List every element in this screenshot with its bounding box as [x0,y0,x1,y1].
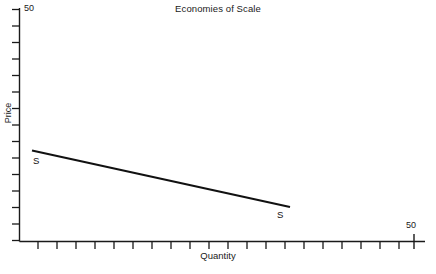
chart-figure: Economies of Scale [0,0,436,274]
supply-curve-label-start: S [33,155,39,166]
y-axis-label: Price [3,93,13,133]
y-axis-ticks [12,10,20,241]
figure-caption [0,266,436,274]
x-axis-label: Quantity [0,250,436,261]
chart-plot-area [0,0,436,274]
x-axis-max-tick-label: 50 [406,220,416,230]
supply-curve [32,151,290,208]
y-axis-max-tick-label: 50 [24,3,34,13]
supply-curve-label-end: S [277,209,283,220]
